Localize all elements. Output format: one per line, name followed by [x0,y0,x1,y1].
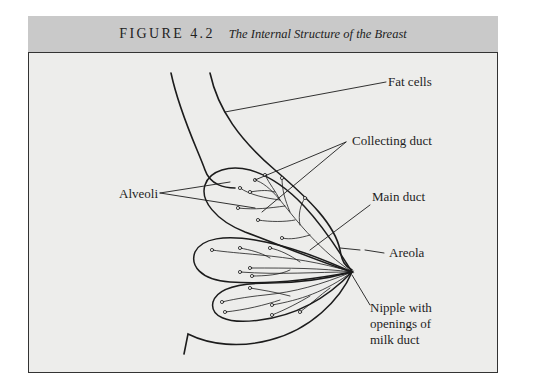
middle-lobe [194,238,352,283]
label-collecting-duct: Collecting duct [352,133,432,149]
lower-lobe-ducts [222,272,352,315]
upper-lobe-ducts [238,175,352,272]
label-main-duct: Main duct [372,189,425,205]
label-alveoli: Alveoli [119,186,158,202]
middle-lobe-ducts [212,248,352,276]
chest-wall-outline [171,73,235,188]
breast-structure-diagram [0,0,547,390]
label-nipple-line-1: Nipple with [370,300,432,316]
breast-underside-outline [184,272,352,354]
label-areola: Areola [389,245,424,261]
label-nipple-line-2: openings of [370,316,431,332]
lower-lobe [213,272,352,321]
label-nipple-line-3: milk duct [370,332,419,348]
upper-lobe [204,168,352,272]
label-fat-cells: Fat cells [388,74,432,90]
